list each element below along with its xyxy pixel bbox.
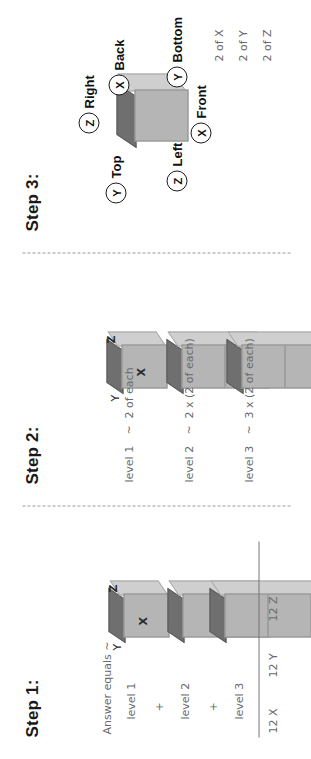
callout-key-badge-icon: Z bbox=[166, 170, 187, 191]
step2-row0-label: level 1 bbox=[122, 445, 135, 482]
callout-key-badge-icon: Y bbox=[166, 66, 187, 87]
callout-label: Right bbox=[81, 75, 96, 108]
step2-row0-expression: 2 of each bbox=[122, 367, 135, 418]
axis-label-x: X bbox=[136, 617, 149, 625]
step1-total-rule bbox=[258, 541, 259, 737]
step2-row1-expression: 2 x (2 of each) bbox=[182, 338, 195, 418]
callout-label: Bottom bbox=[169, 17, 184, 63]
panel-step-2: Step 2: X Y Z level 1 ~ 2 of each level … bbox=[0, 253, 311, 506]
callout-label: Front bbox=[193, 85, 208, 118]
callout-back[interactable]: X Back bbox=[108, 39, 129, 95]
callout-key-badge-icon: Z bbox=[78, 112, 99, 133]
step-3-title: Step 3: bbox=[22, 173, 42, 231]
axis-label-z: Z bbox=[104, 335, 117, 343]
cube-top-face bbox=[106, 338, 123, 393]
cube-front-face bbox=[123, 593, 169, 637]
step1-note-2: + bbox=[152, 702, 165, 711]
cube-front-face bbox=[134, 89, 188, 141]
axis-label-y: Y bbox=[108, 394, 121, 401]
callout-label: Left bbox=[169, 142, 184, 166]
step1-note-5: level 3 bbox=[232, 682, 245, 719]
step2-row1-relation: ~ bbox=[182, 425, 195, 434]
callout-right[interactable]: Z Right bbox=[78, 75, 99, 133]
panel-step-1: Step 1: X Y Z Answer equals ~ level 1 + bbox=[0, 506, 311, 759]
step2-row0-relation: ~ bbox=[122, 425, 135, 434]
axis-label-z: Z bbox=[106, 584, 119, 592]
cube-seam bbox=[224, 345, 225, 387]
cube-seam bbox=[284, 345, 285, 387]
callout-left[interactable]: Z Left bbox=[166, 142, 187, 191]
step2-row2-expression: 3 x (2 of each) bbox=[242, 338, 255, 418]
step3-summary-z: 2 of Z bbox=[260, 29, 273, 61]
step1-total-y: 12 Y bbox=[266, 653, 279, 677]
cube-top-face bbox=[108, 587, 125, 642]
cube-top-face bbox=[167, 587, 184, 642]
step1-note-1: level 1 bbox=[124, 682, 137, 719]
step1-total-z: 12 Z bbox=[266, 596, 279, 621]
callout-key-badge-icon: Y bbox=[105, 182, 126, 203]
step2-row1-label: level 2 bbox=[182, 445, 195, 482]
step-2-title: Step 2: bbox=[22, 426, 42, 484]
callout-front[interactable]: X Front bbox=[190, 85, 211, 143]
callout-bottom[interactable]: Y Bottom bbox=[166, 17, 187, 88]
cube-seam bbox=[310, 594, 311, 636]
step2-row2-relation: ~ bbox=[242, 425, 255, 434]
axis-label-x: X bbox=[134, 368, 147, 376]
callout-top[interactable]: Y Top bbox=[105, 155, 126, 203]
callout-key-badge-icon: X bbox=[108, 74, 129, 95]
worksheet-page: Step 1: X Y Z Answer equals ~ level 1 + bbox=[0, 0, 311, 759]
cube-top-face bbox=[166, 338, 183, 393]
step1-total-x: 12 X bbox=[266, 708, 279, 733]
callout-key-badge-icon: X bbox=[190, 122, 211, 143]
step-1-title: Step 1: bbox=[22, 679, 42, 737]
step1-note-4: + bbox=[206, 702, 219, 711]
step1-note-0: Answer equals ~ bbox=[100, 641, 113, 734]
callout-label: Back bbox=[111, 39, 126, 70]
panel-step-3: Step 3: Y Top Z Right X Back Z Left X Fr… bbox=[0, 0, 311, 253]
step3-summary-x: 2 of X bbox=[212, 29, 225, 61]
step1-note-3: level 2 bbox=[178, 682, 191, 719]
step2-row2-label: level 3 bbox=[242, 445, 255, 482]
callout-label: Top bbox=[108, 155, 123, 178]
step3-summary-y: 2 of Y bbox=[236, 30, 249, 61]
